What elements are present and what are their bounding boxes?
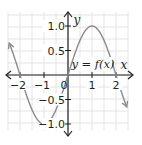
x-tick-label: −2 [10, 79, 26, 92]
x-tick-label: 1 [89, 79, 96, 92]
function-graph: −2−1121.00.5−0.5−1.00yxy = f(x) [0, 0, 142, 145]
origin-label: 0 [61, 79, 68, 92]
function-label: y = f(x) [70, 57, 114, 71]
y-tick-label: 1.0 [48, 20, 66, 33]
axes [6, 12, 133, 136]
x-axis-label: x [121, 58, 128, 72]
y-tick-label: 0.5 [48, 45, 66, 58]
x-tick-label: 2 [113, 79, 120, 92]
y-tick-label: −1.0 [38, 118, 65, 131]
x-tick-label: −1 [34, 79, 50, 92]
y-axis-label: y [73, 13, 81, 27]
y-tick-label: −0.5 [38, 94, 65, 107]
